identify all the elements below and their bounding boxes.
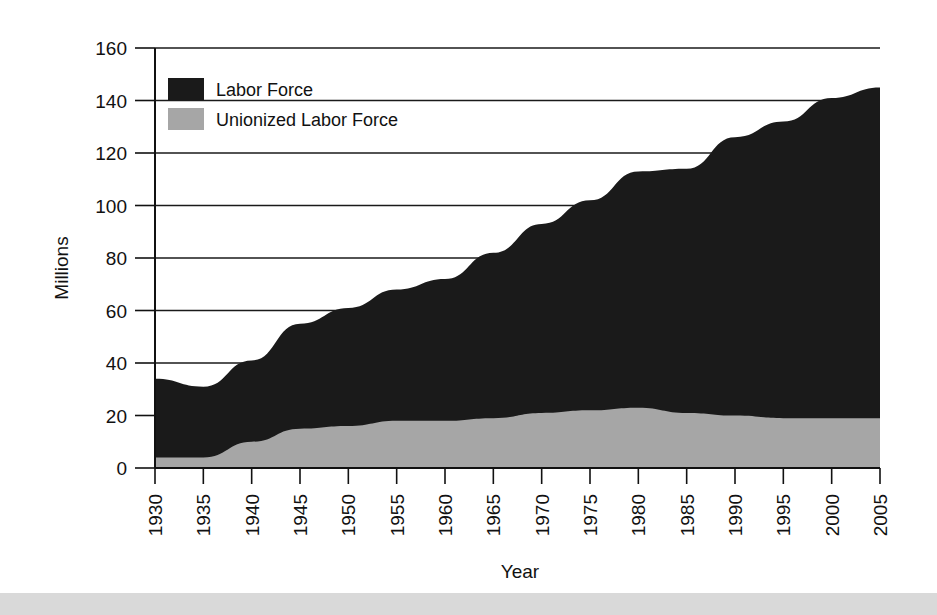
legend-swatch-unionized-labor-force <box>168 108 204 130</box>
x-tick-label: 1950 <box>338 494 359 536</box>
y-tick-label-group: 020406080100120140160 <box>95 38 127 479</box>
x-tick-label: 1935 <box>193 494 214 536</box>
x-tick-label: 2000 <box>822 494 843 536</box>
legend-swatch-labor-force <box>168 78 204 100</box>
area-chart-svg: 020406080100120140160 193019351940194519… <box>0 0 937 615</box>
x-tick-label: 1965 <box>483 494 504 536</box>
y-tick-label: 100 <box>95 196 127 217</box>
x-tick-label: 1995 <box>773 494 794 536</box>
x-tickmark-group <box>155 468 880 484</box>
y-tick-label: 20 <box>106 406 127 427</box>
y-tick-label: 60 <box>106 301 127 322</box>
x-tick-label: 1930 <box>145 494 166 536</box>
y-tick-label: 80 <box>106 248 127 269</box>
y-tick-label: 40 <box>106 353 127 374</box>
y-tick-label: 140 <box>95 91 127 112</box>
y-tickmark-group <box>135 48 155 468</box>
x-tick-label: 1970 <box>532 494 553 536</box>
legend-label-unionized-labor-force: Unionized Labor Force <box>216 110 398 130</box>
x-tick-label: 1985 <box>677 494 698 536</box>
area-series-labor-force <box>155 87 880 468</box>
y-tick-label: 0 <box>116 458 127 479</box>
y-tick-label: 160 <box>95 38 127 59</box>
legend-label-labor-force: Labor Force <box>216 80 313 100</box>
x-tick-label-group: 1930193519401945195019551960196519701975… <box>145 494 891 536</box>
x-tick-label: 1980 <box>628 494 649 536</box>
x-tick-label: 1975 <box>580 494 601 536</box>
x-tick-label: 1940 <box>242 494 263 536</box>
x-tick-label: 1960 <box>435 494 456 536</box>
x-axis-title: Year <box>501 561 540 582</box>
page-footer-band <box>0 593 937 615</box>
x-tick-label: 1990 <box>725 494 746 536</box>
y-tick-label: 120 <box>95 143 127 164</box>
x-tick-label: 1955 <box>387 494 408 536</box>
x-tick-label: 2005 <box>870 494 891 536</box>
chart-figure: 020406080100120140160 193019351940194519… <box>0 0 937 615</box>
x-tick-label: 1945 <box>290 494 311 536</box>
chart-legend: Labor Force Unionized Labor Force <box>168 78 398 130</box>
y-axis-title: Millions <box>51 236 72 299</box>
